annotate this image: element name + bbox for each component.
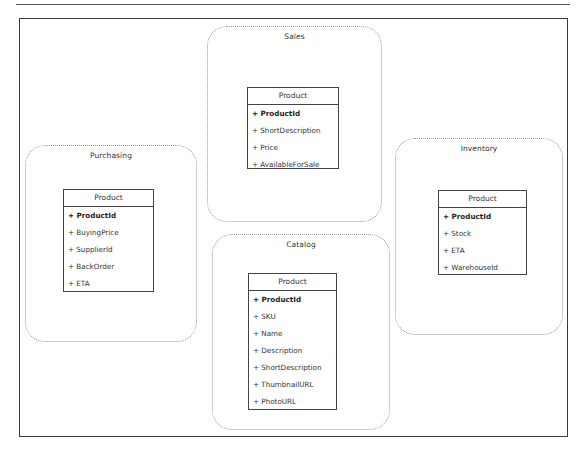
class-title: Product [439, 191, 526, 208]
attribute: + PhotoURL [249, 393, 336, 410]
attribute: + Description [249, 342, 336, 359]
attribute: + ProductId [439, 208, 526, 225]
attribute: + Stock [439, 225, 526, 242]
class-title: Product [248, 88, 338, 105]
attribute: + WarehouseId [439, 259, 526, 276]
context-label: Sales [208, 32, 381, 41]
attribute: + AvailableForSale [248, 156, 338, 173]
attribute: + ThumbnailURL [249, 376, 336, 393]
class-product-catalog: Product + ProductId + SKU + Name + Descr… [248, 273, 337, 410]
attribute: + BuyingPrice [64, 224, 153, 241]
attribute: + ShortDescription [248, 122, 338, 139]
attribute: + SKU [249, 308, 336, 325]
context-label: Catalog [213, 240, 389, 249]
attribute: + ProductId [249, 291, 336, 308]
context-label: Purchasing [26, 151, 196, 160]
class-product-inventory: Product + ProductId + Stock + ETA + Ware… [438, 190, 527, 275]
class-title: Product [64, 190, 153, 207]
attribute: + SupplierId [64, 241, 153, 258]
attribute: + Price [248, 139, 338, 156]
attribute: + ShortDescription [249, 359, 336, 376]
class-title: Product [249, 274, 336, 291]
attribute: + BackOrder [64, 258, 153, 275]
attribute: + ETA [439, 242, 526, 259]
class-product-purchasing: Product + ProductId + BuyingPrice + Supp… [63, 189, 154, 292]
attribute: + ProductId [64, 207, 153, 224]
attribute: + Name [249, 325, 336, 342]
top-divider [16, 4, 570, 5]
attribute: + ETA [64, 275, 153, 292]
attribute: + ProductId [248, 105, 338, 122]
class-product-sales: Product + ProductId + ShortDescription +… [247, 87, 339, 169]
context-label: Inventory [396, 144, 562, 153]
